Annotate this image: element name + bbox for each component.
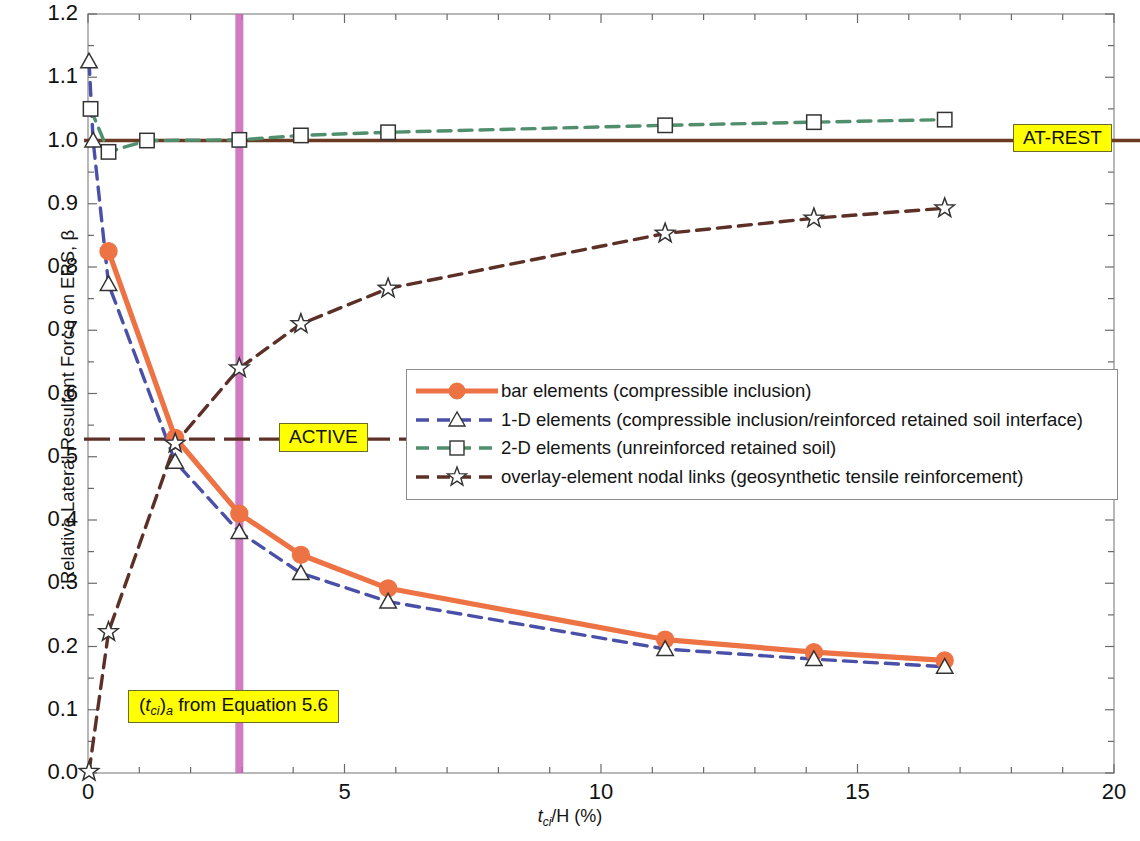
legend-marker-square-icon [413,435,501,461]
data-point-triangle [81,53,97,68]
eq-sub2: a [166,704,173,718]
equation-annotation: (tci)a from Equation 5.6 [128,690,339,723]
data-point-triangle [100,276,116,291]
series-line [89,61,945,666]
eq-sub: ci [151,704,160,718]
chart-legend: bar elements (compressible inclusion)1-D… [406,369,1118,500]
data-point-square [381,125,395,139]
legend-item-label: 2-D elements (unreinforced retained soil… [501,437,836,459]
legend-marker-circle-icon [413,378,501,404]
legend-item-label: overlay-element nodal links (geosyntheti… [501,466,1023,488]
data-point-square [101,145,115,159]
data-point-square [294,128,308,142]
legend-marker-star-icon [413,464,501,490]
legend-item-label: 1-D elements (compressible inclusion/rei… [501,409,1083,431]
data-point-square [658,118,672,132]
legend-item-label: bar elements (compressible inclusion) [501,380,812,402]
data-point-star [378,278,397,296]
data-point-triangle [293,565,309,580]
data-point-circle [231,505,248,522]
data-point-square [938,112,952,126]
legend-item: overlay-element nodal links (geosyntheti… [407,463,1117,492]
data-point-star [655,223,674,241]
data-point-square [807,115,821,129]
data-point-square [232,133,246,147]
legend-item: 1-D elements (compressible inclusion/rei… [407,406,1117,435]
data-point-circle [100,243,117,260]
legend-marker-triangle-icon [413,407,501,433]
active-label: ACTIVE [279,423,368,452]
chart-root: Relative Lateral Resultant Force on ERS,… [0,0,1140,841]
data-point-star [935,198,954,216]
data-point-triangle [231,524,247,539]
data-point-circle [292,546,309,563]
data-point-square [83,102,97,116]
data-point-triangle [380,593,396,608]
at-rest-label: AT-REST [1013,124,1112,153]
data-point-star [79,762,98,780]
data-point-star [804,208,823,226]
data-point-square [140,133,154,147]
legend-item: 2-D elements (unreinforced retained soil… [407,434,1117,463]
eq-suffix: from Equation 5.6 [173,694,328,715]
legend-item: bar elements (compressible inclusion) [407,377,1117,406]
